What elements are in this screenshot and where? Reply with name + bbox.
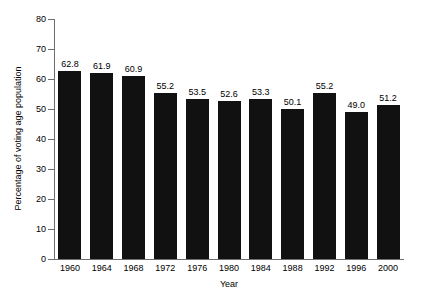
bar bbox=[58, 71, 81, 259]
bar-value-label: 49.0 bbox=[348, 100, 366, 110]
x-axis-tick-label: 1972 bbox=[149, 263, 181, 274]
bar-group: 61.9 bbox=[90, 19, 113, 259]
x-axis-tick-label: 1968 bbox=[118, 263, 150, 274]
bar bbox=[313, 93, 336, 259]
y-axis-tick-label: 70 bbox=[6, 45, 46, 54]
bar-group: 52.6 bbox=[218, 19, 241, 259]
x-axis-tick-label: 2000 bbox=[372, 263, 404, 274]
bar-group: 49.0 bbox=[345, 19, 368, 259]
x-axis-tick-label: 1992 bbox=[308, 263, 340, 274]
bar-value-label: 50.1 bbox=[284, 97, 302, 107]
bar-value-label: 61.9 bbox=[93, 61, 111, 71]
bar bbox=[186, 99, 209, 260]
bar-group: 55.2 bbox=[154, 19, 177, 259]
y-axis-tick-label: 80 bbox=[6, 15, 46, 24]
bar-value-label: 52.6 bbox=[220, 89, 238, 99]
y-axis-tick-label: 0 bbox=[6, 255, 46, 264]
x-axis-tick-label: 1976 bbox=[181, 263, 213, 274]
bar-group: 62.8 bbox=[58, 19, 81, 259]
y-axis-tick-label: 60 bbox=[6, 75, 46, 84]
x-axis-tick-label: 1996 bbox=[340, 263, 372, 274]
bar-value-label: 53.5 bbox=[188, 87, 206, 97]
bar bbox=[377, 105, 400, 259]
bar-value-label: 53.3 bbox=[252, 87, 270, 97]
bar bbox=[281, 109, 304, 259]
bar-group: 53.3 bbox=[249, 19, 272, 259]
bar-value-label: 62.8 bbox=[61, 59, 79, 69]
bar-value-label: 55.2 bbox=[157, 81, 175, 91]
x-axis-line bbox=[54, 259, 404, 260]
bars-layer: 62.861.960.955.253.552.653.350.155.249.0… bbox=[54, 19, 404, 259]
bar-group: 55.2 bbox=[313, 19, 336, 259]
y-axis-tick-label: 40 bbox=[6, 135, 46, 144]
x-axis-title: Year bbox=[54, 279, 404, 289]
bar-group: 53.5 bbox=[186, 19, 209, 259]
bar-chart: Percentage of voting age population 0102… bbox=[0, 0, 439, 303]
x-axis-tick-label: 1960 bbox=[54, 263, 86, 274]
y-axis-tick-label: 50 bbox=[6, 105, 46, 114]
bar-group: 60.9 bbox=[122, 19, 145, 259]
bar-value-label: 55.2 bbox=[316, 81, 334, 91]
y-axis-tick-label: 10 bbox=[6, 225, 46, 234]
bar bbox=[122, 76, 145, 259]
x-axis-tick-label: 1988 bbox=[277, 263, 309, 274]
y-axis-tick-label: 20 bbox=[6, 195, 46, 204]
y-axis-tick bbox=[48, 259, 54, 260]
bar bbox=[218, 101, 241, 259]
x-axis-tick-label: 1984 bbox=[245, 263, 277, 274]
bar bbox=[345, 112, 368, 259]
x-axis-tick-label: 1964 bbox=[86, 263, 118, 274]
bar bbox=[249, 99, 272, 259]
bar-group: 50.1 bbox=[281, 19, 304, 259]
bar-value-label: 60.9 bbox=[125, 64, 143, 74]
y-axis-tick-label: 30 bbox=[6, 165, 46, 174]
bar bbox=[90, 73, 113, 259]
bar-group: 51.2 bbox=[377, 19, 400, 259]
bar-value-label: 51.2 bbox=[379, 93, 397, 103]
bar bbox=[154, 93, 177, 259]
x-axis-tick-label: 1980 bbox=[213, 263, 245, 274]
